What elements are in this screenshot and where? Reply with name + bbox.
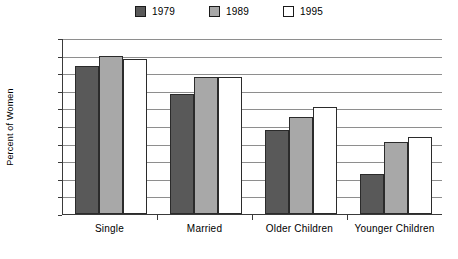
x-axis-label-married: Married xyxy=(187,223,222,234)
legend-label-1989: 1989 xyxy=(226,6,249,17)
bar-1989-married xyxy=(194,77,218,214)
legend-entry-1979: 1979 xyxy=(135,6,175,17)
bar-group-younger-children xyxy=(348,39,443,214)
legend-swatch-1989 xyxy=(209,6,220,17)
legend-label-1995: 1995 xyxy=(300,6,323,17)
x-axis-label-single: Single xyxy=(95,223,124,234)
y-tick-mark-100 xyxy=(58,39,62,40)
y-tick-mark-90 xyxy=(58,74,62,75)
bar-group-single xyxy=(63,39,158,214)
x-tick-mark-2 xyxy=(252,215,253,220)
plot-wrapper: Percent of Women 10095908580757065605550… xyxy=(62,39,442,215)
y-axis-title: Percent of Women xyxy=(5,88,15,166)
y-tick-mark-60 xyxy=(58,180,62,181)
bar-chart: 197919891995 Percent of Women 1009590858… xyxy=(0,0,458,259)
plot-area xyxy=(62,39,442,215)
bar-1995-younger-children xyxy=(408,137,432,214)
y-tick-mark-95 xyxy=(58,57,62,58)
y-tick-mark-80 xyxy=(58,109,62,110)
y-tick-mark-65 xyxy=(58,162,62,163)
bar-1995-married xyxy=(218,77,242,214)
legend-entry-1995: 1995 xyxy=(283,6,323,17)
y-tick-mark-50 xyxy=(58,215,62,216)
legend-swatch-1979 xyxy=(135,6,146,17)
y-tick-mark-55 xyxy=(58,197,62,198)
x-tick-mark-1 xyxy=(157,215,158,220)
x-tick-mark-3 xyxy=(347,215,348,220)
bar-1989-older-children xyxy=(289,117,313,214)
bar-1979-older-children xyxy=(265,130,289,214)
legend-entry-1989: 1989 xyxy=(209,6,249,17)
legend-label-1979: 1979 xyxy=(152,6,175,17)
chart-legend: 197919891995 xyxy=(0,6,458,17)
bar-1995-older-children xyxy=(313,107,337,214)
bar-1979-younger-children xyxy=(360,174,384,214)
legend-swatch-1995 xyxy=(283,6,294,17)
x-axis-label-older-children: Older Children xyxy=(266,223,333,234)
bar-1989-younger-children xyxy=(384,142,408,214)
y-tick-mark-70 xyxy=(58,145,62,146)
bar-1989-single xyxy=(99,56,123,214)
y-tick-mark-85 xyxy=(58,92,62,93)
bar-1995-single xyxy=(123,59,147,214)
bar-1979-single xyxy=(75,66,99,214)
bar-1979-married xyxy=(170,94,194,214)
bar-group-married xyxy=(158,39,253,214)
x-axis-label-younger-children: Younger Children xyxy=(354,223,434,234)
y-tick-mark-75 xyxy=(58,127,62,128)
bar-group-older-children xyxy=(253,39,348,214)
